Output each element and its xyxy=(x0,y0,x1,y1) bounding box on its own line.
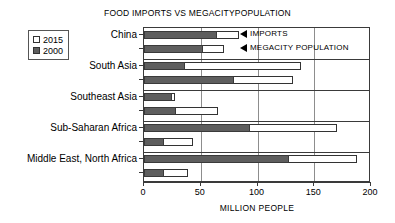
group-separator-3 xyxy=(144,121,369,122)
bar-middle-east-north-africa-imports-2000 xyxy=(144,155,289,163)
legend-label-2000: 2000 xyxy=(43,46,63,56)
x-tick-label-150: 150 xyxy=(293,187,333,197)
y-tick-3 xyxy=(139,79,143,80)
y-tick-2 xyxy=(139,65,143,66)
bar-china-imports-2000 xyxy=(144,31,217,39)
y-tick-5 xyxy=(139,110,143,111)
annotation-imports: IMPORTS xyxy=(240,29,288,38)
y-tick-6 xyxy=(139,127,143,128)
y-tick-9 xyxy=(139,172,143,173)
legend-item-2015: 2015 xyxy=(33,34,63,45)
x-tick-0 xyxy=(143,182,144,186)
y-tick-0 xyxy=(139,34,143,35)
group-separator-1 xyxy=(144,59,369,60)
bar-south-asia-megacity-2000 xyxy=(144,76,234,84)
legend-swatch-2015-icon xyxy=(33,36,40,43)
category-label-sub-saharan-africa: Sub-Saharan Africa xyxy=(50,122,137,133)
bar-middle-east-north-africa-megacity-2000 xyxy=(144,169,164,177)
bar-sub-saharan-africa-megacity-2000 xyxy=(144,138,164,146)
category-label-southeast-asia: Southeast Asia xyxy=(70,91,137,102)
annotation-megacity-population-label: MEGACITY POPULATION xyxy=(250,43,349,52)
annotation-megacity-population: MEGACITY POPULATION xyxy=(240,43,349,52)
bar-southeast-asia-megacity-2000 xyxy=(144,107,176,115)
chart-title: FOOD IMPORTS VS MEGACITYPOPULATION xyxy=(0,8,395,18)
bar-south-asia-imports-2000 xyxy=(144,62,185,70)
legend-swatch-2000-icon xyxy=(33,47,40,54)
arrow-left-icon xyxy=(240,44,247,52)
x-tick-50 xyxy=(200,182,201,186)
x-tick-label-100: 100 xyxy=(237,187,277,197)
arrow-left-icon xyxy=(240,30,247,38)
chart-legend: 2015 2000 xyxy=(28,30,69,60)
x-tick-label-50: 50 xyxy=(180,187,220,197)
category-label-middle-east-north-africa: Middle East, North Africa xyxy=(27,153,137,164)
x-tick-200 xyxy=(370,182,371,186)
x-axis-label: MILLION PEOPLE xyxy=(143,203,371,213)
bar-sub-saharan-africa-imports-2000 xyxy=(144,124,250,132)
x-tick-100 xyxy=(257,182,258,186)
category-label-china: China xyxy=(111,29,137,40)
y-tick-1 xyxy=(139,48,143,49)
group-separator-4 xyxy=(144,152,369,153)
legend-item-2000: 2000 xyxy=(33,45,63,56)
y-tick-8 xyxy=(139,158,143,159)
y-tick-7 xyxy=(139,141,143,142)
x-tick-label-0: 0 xyxy=(123,187,163,197)
annotation-imports-label: IMPORTS xyxy=(250,29,288,38)
x-tick-150 xyxy=(313,182,314,186)
group-separator-2 xyxy=(144,90,369,91)
bar-southeast-asia-imports-2000 xyxy=(144,93,172,101)
category-label-south-asia: South Asia xyxy=(89,60,137,71)
x-tick-label-200: 200 xyxy=(350,187,390,197)
chart-container: FOOD IMPORTS VS MEGACITYPOPULATION xyxy=(0,0,395,223)
legend-label-2015: 2015 xyxy=(43,35,63,45)
y-tick-4 xyxy=(139,96,143,97)
bar-china-megacity-2000 xyxy=(144,45,203,53)
y-axis-line xyxy=(143,27,144,183)
